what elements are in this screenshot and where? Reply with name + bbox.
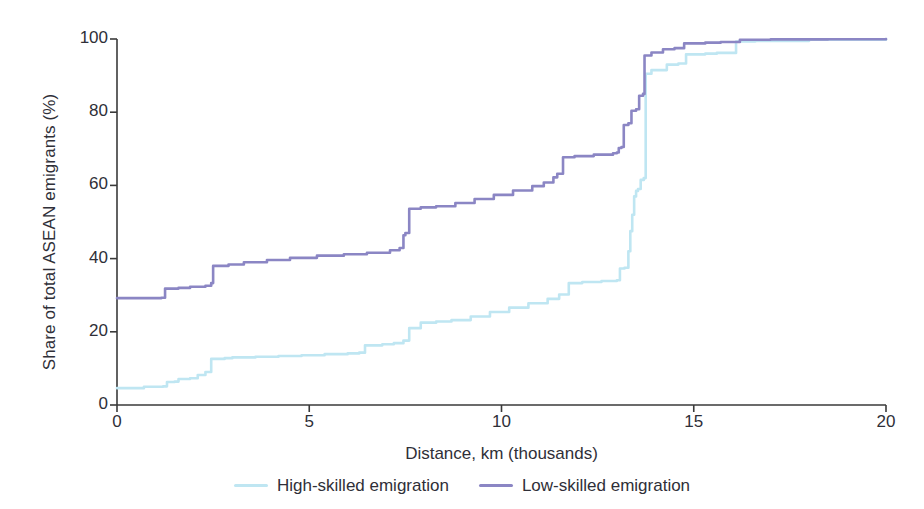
x-axis-title: Distance, km (thousands) <box>117 444 886 464</box>
y-axis-tick-label: 40 <box>66 248 108 268</box>
series-line-high-skilled-emigration <box>117 39 886 388</box>
x-axis-tick-labels: 05101520 <box>0 412 924 440</box>
y-axis-tick-label: 80 <box>66 101 108 121</box>
legend-item-1[interactable]: High-skilled emigration <box>234 477 449 494</box>
x-axis-tick-label: 15 <box>669 412 719 432</box>
y-axis-tick-label: 60 <box>66 174 108 194</box>
x-axis-ticks <box>117 405 886 412</box>
x-axis-tick-label: 10 <box>477 412 527 432</box>
legend-swatch-icon <box>479 484 513 487</box>
legend-item-2[interactable]: Low-skilled emigration <box>479 477 690 494</box>
legend-swatch-icon <box>234 484 268 487</box>
data-series-group <box>117 39 886 388</box>
legend-label: High-skilled emigration <box>277 477 449 494</box>
chart-legend: High-skilled emigrationLow-skilled emigr… <box>0 477 924 494</box>
series-line-low-skilled-emigration <box>117 39 886 298</box>
y-axis-tick-label: 20 <box>66 321 108 341</box>
axis-lines <box>117 39 886 405</box>
x-axis-tick-label: 20 <box>861 412 911 432</box>
x-axis-tick-label: 5 <box>284 412 334 432</box>
chart-figure: Share of total ASEAN emigrants (%) 02040… <box>0 0 924 509</box>
y-axis-tick-label: 100 <box>66 28 108 48</box>
legend-label: Low-skilled emigration <box>522 477 690 494</box>
x-axis-tick-label: 0 <box>92 412 142 432</box>
y-axis-ticks <box>110 39 117 405</box>
y-axis-tick-label: 0 <box>66 394 108 414</box>
